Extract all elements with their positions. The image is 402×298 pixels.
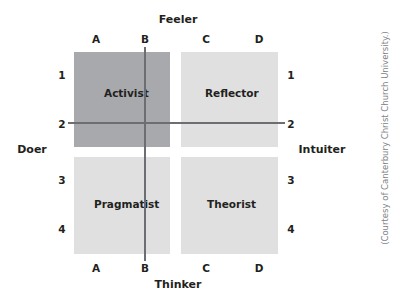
row-tick-left-3: 3 (58, 174, 65, 186)
pole-thinker: Thinker (155, 278, 202, 291)
column-tick-top-d: D (255, 33, 264, 45)
pole-doer: Doer (17, 143, 47, 156)
quadrant-label-reflector: Reflector (205, 87, 259, 99)
column-tick-top-a: A (92, 33, 100, 45)
column-tick-bottom-a: A (92, 262, 100, 274)
pole-intuiter: Intuiter (299, 143, 346, 156)
column-tick-bottom-c: C (202, 262, 210, 274)
quadrant-pragmatist: Pragmatist (74, 157, 170, 254)
column-tick-top-b: B (141, 33, 149, 45)
row-tick-right-2: 2 (287, 118, 294, 130)
column-tick-bottom-b: B (141, 262, 149, 274)
row-tick-left-4: 4 (58, 223, 65, 235)
quadrant-label-activist: Activist (104, 87, 149, 99)
column-tick-top-c: C (202, 33, 210, 45)
quadrant-label-theorist: Theorist (207, 198, 256, 210)
row-tick-left-2: 2 (58, 118, 65, 130)
column-tick-bottom-d: D (255, 262, 264, 274)
quadrant-label-pragmatist: Pragmatist (94, 198, 159, 210)
quadrant-theorist: Theorist (181, 157, 278, 254)
horizontal-axis-line (68, 122, 285, 124)
row-tick-left-1: 1 (58, 69, 65, 81)
image-credit: (Courtesy of Canterbury Christ Church Un… (380, 31, 390, 245)
vertical-axis-line (144, 47, 146, 261)
row-tick-right-3: 3 (287, 174, 294, 186)
quadrant-reflector: Reflector (181, 52, 278, 147)
quadrant-activist: Activist (74, 52, 170, 147)
pole-feeler: Feeler (159, 13, 198, 26)
row-tick-right-4: 4 (287, 223, 294, 235)
row-tick-right-1: 1 (287, 69, 294, 81)
learning-styles-diagram: Activist Reflector Pragmatist Theorist A… (0, 0, 402, 298)
